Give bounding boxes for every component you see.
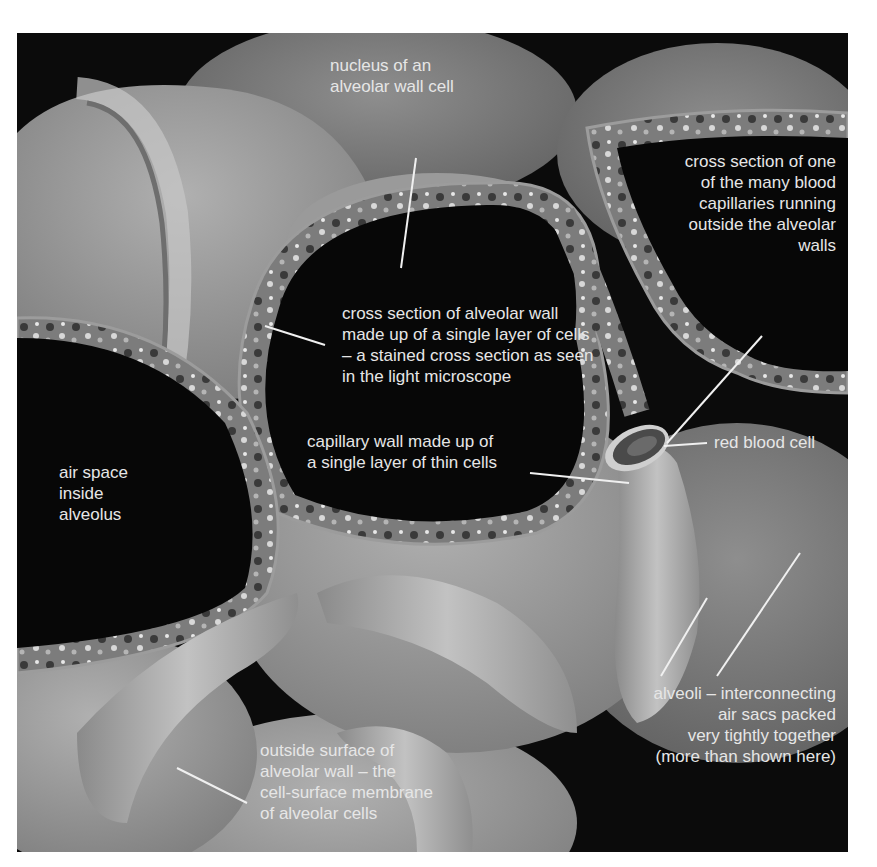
label-line: outside surface of: [260, 740, 433, 761]
label-alveoli: alveoli – interconnecting air sacs packe…: [654, 683, 836, 767]
label-line: outside the alveolar: [685, 214, 836, 235]
label-line: made up of a single layer of cells: [342, 324, 593, 345]
label-line: in the light microscope: [342, 366, 593, 387]
label-red-blood-cell: red blood cell: [714, 432, 815, 453]
label-line: (more than shown here): [654, 746, 836, 767]
label-line: nucleus of an: [330, 55, 454, 76]
label-line: cross section of alveolar wall: [342, 303, 593, 324]
label-line: cross section of one: [685, 151, 836, 172]
label-outside-surface: outside surface of alveolar wall – the c…: [260, 740, 433, 824]
label-nucleus: nucleus of an alveolar wall cell: [330, 55, 454, 97]
label-line: alveolar wall cell: [330, 76, 454, 97]
label-line: cell-surface membrane: [260, 782, 433, 803]
label-line: – a stained cross section as seen: [342, 345, 593, 366]
label-line: of the many blood: [685, 172, 836, 193]
diagram-frame: nucleus of an alveolar wall cell cross s…: [17, 33, 848, 852]
label-line: very tightly together: [654, 725, 836, 746]
label-line: capillaries running: [685, 193, 836, 214]
label-alveolar-wall-section: cross section of alveolar wall made up o…: [342, 303, 593, 387]
label-line: air space: [59, 462, 128, 483]
label-line: of alveolar cells: [260, 803, 433, 824]
label-line: alveolus: [59, 504, 128, 525]
label-line: alveolar wall – the: [260, 761, 433, 782]
label-line: alveoli – interconnecting: [654, 683, 836, 704]
label-line: walls: [685, 235, 836, 256]
label-line: red blood cell: [714, 432, 815, 453]
label-capillary-wall: capillary wall made up of a single layer…: [307, 431, 497, 473]
label-line: air sacs packed: [654, 704, 836, 725]
label-capillary-cross-section: cross section of one of the many blood c…: [685, 151, 836, 256]
label-line: capillary wall made up of: [307, 431, 497, 452]
label-air-space: air space inside alveolus: [59, 462, 128, 525]
label-line: inside: [59, 483, 128, 504]
label-line: a single layer of thin cells: [307, 452, 497, 473]
